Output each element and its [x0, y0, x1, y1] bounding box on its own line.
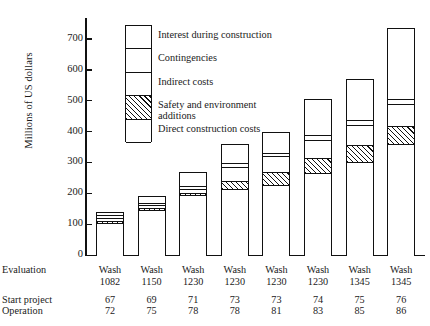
legend-label-column: Interest during constructionContingencie…	[158, 25, 398, 142]
bar-segment	[180, 196, 206, 256]
table-row-label: Start project	[2, 294, 52, 305]
table-cell: 75	[355, 294, 365, 305]
table-cell: 1345	[349, 276, 369, 287]
table-cell: 74	[313, 294, 323, 305]
table-cell: 69	[147, 294, 157, 305]
bar-column	[221, 144, 249, 255]
table-cell: 81	[271, 305, 281, 316]
bar-segment	[263, 186, 289, 256]
table-cell: 1082	[100, 276, 120, 287]
legend-label: Indirect costs	[158, 76, 213, 87]
table-cell: 83	[313, 305, 323, 316]
table-cell: Wash	[390, 264, 412, 275]
table-cell: 67	[105, 294, 115, 305]
bar-segment	[222, 145, 248, 164]
table-cell: 78	[230, 305, 240, 316]
bar-column	[262, 132, 290, 255]
legend-swatch-column	[125, 25, 152, 142]
bar-segment	[305, 174, 331, 256]
bar-segment	[222, 182, 248, 190]
table-row-label: Evaluation	[2, 264, 46, 275]
table-cell: 71	[188, 294, 198, 305]
legend-label: Direct construction costs	[158, 123, 260, 134]
bar-segment	[388, 145, 414, 256]
bar-segment	[263, 173, 289, 186]
bar-segment	[347, 163, 373, 256]
table-cell: 1230	[266, 276, 286, 287]
table-cell: 73	[230, 294, 240, 305]
stacked-bar-chart: Millions of US dollars 70060050040030020…	[0, 0, 430, 326]
table-cell: 75	[147, 305, 157, 316]
bar-segment	[347, 146, 373, 163]
bar-segment	[222, 168, 248, 182]
table-cell: 1230	[183, 276, 203, 287]
legend-label-continued: additions	[158, 110, 196, 121]
table-cell: 86	[396, 305, 406, 316]
bar-segment	[222, 190, 248, 256]
bar-column	[179, 172, 207, 255]
table-row-label: Operation	[2, 305, 43, 316]
table-cell: 1150	[142, 276, 162, 287]
legend-label: Contingencies	[158, 52, 217, 63]
table-cell: Wash	[307, 264, 329, 275]
table-cell: Wash	[265, 264, 287, 275]
table-cell: 73	[271, 294, 281, 305]
legend-swatch	[126, 26, 151, 49]
bar-segment	[139, 211, 165, 256]
table-cell: Wash	[224, 264, 246, 275]
table-cell: Wash	[348, 264, 370, 275]
table-cell: 1230	[308, 276, 328, 287]
table-cell: 76	[396, 294, 406, 305]
table-cell: 85	[355, 305, 365, 316]
table-cell: 1345	[391, 276, 411, 287]
table-cell: Wash	[182, 264, 204, 275]
legend-swatch	[126, 49, 151, 72]
legend-label: Safety and environment	[158, 99, 256, 110]
table-cell: 1230	[225, 276, 245, 287]
bar-segment	[305, 159, 331, 174]
legend-swatch	[126, 96, 151, 119]
legend-swatch	[126, 73, 151, 96]
table-cell: 78	[188, 305, 198, 316]
bar-segment	[263, 157, 289, 172]
table-cell: 72	[105, 305, 115, 316]
table-cell: Wash	[140, 264, 162, 275]
bar-segment	[97, 224, 123, 256]
bar-segment	[305, 141, 331, 160]
table-cell: Wash	[99, 264, 121, 275]
bar-column	[138, 196, 166, 255]
bar-segment	[180, 173, 206, 187]
legend-swatch	[126, 120, 151, 143]
legend-label: Interest during construction	[158, 29, 272, 40]
bar-column	[96, 212, 124, 255]
